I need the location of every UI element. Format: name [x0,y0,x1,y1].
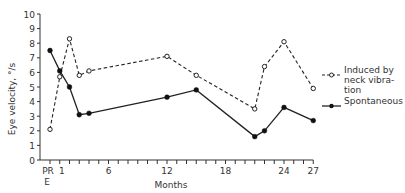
filled-circle-marker [57,69,62,74]
open-circle-marker [262,64,266,68]
open-circle-marker [311,86,315,90]
y-tick-label: 4 [29,97,35,107]
y-tick-label: 3 [29,112,35,122]
open-circle-marker [282,40,286,44]
y-tick-label: 8 [29,39,35,49]
filled-circle-marker [252,134,257,139]
filled-circle-marker [262,128,267,133]
legend-label: neck vibra- [344,75,394,85]
x-tick-label: PR [42,166,54,176]
filled-circle-marker [194,88,199,93]
x-tick-label: 18 [220,166,232,176]
filled-circle-marker [311,118,316,123]
filled-circle-marker [77,112,82,117]
x-tick-sublabel: E [44,177,50,187]
legend-label: Spontaneous [344,96,403,106]
y-tick-label: 9 [29,24,35,34]
legend-label: Induced by [344,65,395,75]
x-tick-label: 6 [106,166,112,176]
x-axis-label: Months [155,180,188,190]
legend-label: tion [344,85,361,95]
legend-open-circle-icon [330,73,334,77]
x-tick-label: 27 [308,166,319,176]
y-tick-label: 0 [29,156,35,166]
y-tick-label: 5 [29,83,35,93]
filled-circle-marker [282,105,287,110]
y-tick-label: 7 [29,53,35,63]
x-tick-label: 12 [161,166,172,176]
y-tick-label: 2 [29,126,35,136]
open-circle-marker [77,73,81,77]
x-tick-label: 1 [59,166,65,176]
eye-velocity-chart: 012345678910Eye velocity, °/sPRE16121824… [0,0,405,193]
chart-svg: 012345678910Eye velocity, °/sPRE16121824… [0,0,405,193]
y-tick-label: 6 [29,68,35,78]
y-tick-label: 10 [24,10,36,20]
filled-circle-marker [165,95,170,100]
open-circle-marker [58,75,62,79]
x-tick-label: 24 [278,166,290,176]
y-tick-label: 1 [29,141,35,151]
filled-circle-marker [67,85,72,90]
y-axis-label: Eye velocity, °/s [7,62,17,135]
open-circle-marker [67,37,71,41]
open-circle-marker [87,69,91,73]
open-circle-marker [194,73,198,77]
legend-filled-circle-icon [329,104,333,108]
spontaneous-series-line [50,51,313,137]
open-circle-marker [253,107,257,111]
filled-circle-marker [87,111,92,116]
open-circle-marker [165,54,169,58]
filled-circle-marker [48,48,53,53]
open-circle-marker [48,127,52,131]
